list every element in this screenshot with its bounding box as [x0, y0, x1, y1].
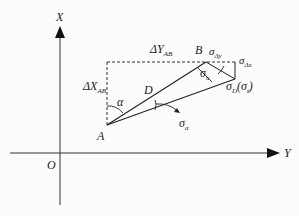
x-axis-arrow-icon: [55, 26, 65, 38]
sigma-alpha-arc: [155, 100, 156, 110]
y-axis-label: Y: [284, 147, 291, 159]
point-d-label: D: [144, 84, 153, 96]
alpha-label: α: [117, 96, 123, 108]
sigma-dy-label: σΔy: [209, 46, 222, 60]
x-axis-label: X: [56, 11, 63, 23]
delta-y-label: ΔYAB: [150, 43, 172, 58]
line-ab: [107, 62, 206, 125]
sigma-dx-label: σΔx: [239, 55, 252, 69]
y-axis-arrow-icon: [267, 148, 280, 158]
sigma-d-label: σD(σt): [226, 80, 253, 95]
sigma-alpha-label: σα: [179, 117, 189, 132]
origin-label: O: [47, 159, 56, 171]
line-a-error: [107, 79, 235, 125]
delta-x-label: ΔXAB: [83, 80, 106, 95]
point-a-label: A: [97, 130, 104, 142]
coordinate-error-diagram: X Y O A B D ΔYAB ΔXAB α σα σu σΔy σΔx σD…: [0, 0, 299, 216]
diagram-graphics: [0, 0, 299, 216]
sigma-u-label: σu: [200, 67, 209, 82]
point-b-label: B: [195, 44, 202, 56]
line-b-error: [206, 62, 235, 79]
sigma-alpha-pointer: [156, 104, 178, 111]
